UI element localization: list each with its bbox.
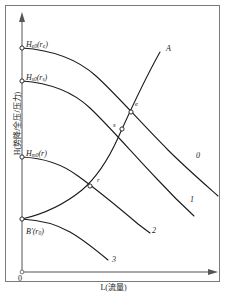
y-axis-title: H(势降/全压/压力) <box>11 76 22 172</box>
intercept-marker-B0 <box>20 217 24 221</box>
curve-label-0: 0 <box>196 152 200 160</box>
x-axis <box>22 269 218 275</box>
curve-label-2: 2 <box>152 227 156 235</box>
curve-label-1: 1 <box>190 196 194 204</box>
intercept-Hm0-close: ) <box>44 149 47 158</box>
point-marker-e <box>129 110 133 114</box>
intercept-label-B0: B′(r0) <box>26 228 44 237</box>
intercept-He0-close: ) <box>45 40 48 49</box>
intercept-marker-He0 <box>20 46 24 50</box>
curve-3 <box>22 219 108 260</box>
point-label-r: r <box>97 177 100 184</box>
curve-label-3: 3 <box>112 256 116 264</box>
curve-0 <box>22 48 218 196</box>
point-label-s: s <box>113 122 116 129</box>
intercept-label-Hm0: Hm0(r) <box>26 150 47 159</box>
intercept-B0-close: ) <box>41 227 44 236</box>
origin-label: 0 <box>18 275 22 283</box>
curve-label-A: A <box>166 45 171 53</box>
x-axis-title: L(流量) <box>0 281 227 292</box>
point-marker-s <box>120 127 124 131</box>
point-label-e: e <box>135 101 138 108</box>
point-marker-r <box>88 184 92 188</box>
intercept-label-Hs0: Hs0(rs) <box>26 74 47 83</box>
chart-figure: H(势降/全压/压力) L(流量) 0 He0(re) Hs0(rs) Hm0(… <box>0 0 227 298</box>
intercept-label-He0: He0(re) <box>26 41 48 50</box>
intercept-Hs0-close: ) <box>45 73 48 82</box>
curve-1 <box>22 81 194 216</box>
